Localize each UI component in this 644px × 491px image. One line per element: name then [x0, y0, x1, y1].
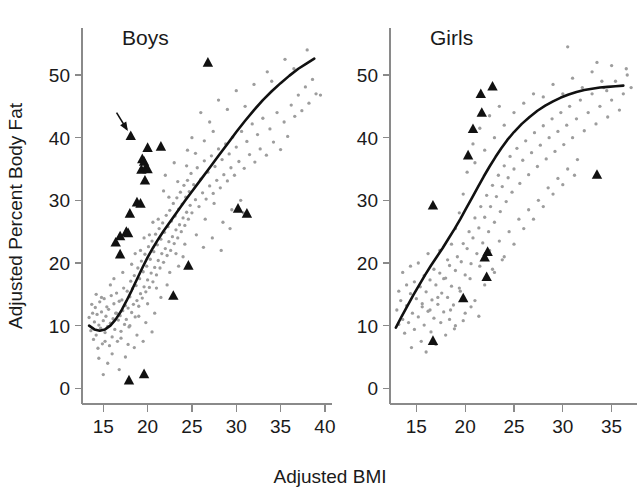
data-point — [306, 48, 309, 51]
figure-container: 01020304050152025303540Boys0102030405015… — [0, 0, 644, 491]
data-point — [293, 115, 296, 118]
data-point — [185, 164, 188, 167]
data-point — [533, 131, 536, 134]
data-point — [501, 185, 504, 188]
data-point — [407, 321, 410, 324]
data-point — [279, 148, 282, 151]
data-point — [424, 350, 427, 353]
data-point — [449, 308, 452, 311]
data-point — [110, 335, 113, 338]
data-point — [226, 179, 229, 182]
data-point — [134, 315, 137, 318]
data-point — [181, 255, 184, 258]
data-point — [161, 221, 164, 224]
data-point — [145, 264, 148, 267]
data-point — [194, 198, 197, 201]
data-point — [108, 344, 111, 347]
data-point — [142, 340, 145, 343]
data-point — [158, 266, 161, 269]
data-point — [140, 259, 143, 262]
data-point — [195, 233, 198, 236]
data-point — [439, 321, 442, 324]
data-point — [123, 323, 126, 326]
data-point — [266, 70, 269, 73]
data-point — [126, 290, 129, 293]
data-point — [436, 296, 439, 299]
data-point — [187, 217, 190, 220]
data-point — [202, 246, 205, 249]
data-point — [173, 242, 176, 245]
data-point — [90, 303, 93, 306]
data-point — [87, 316, 90, 319]
data-point — [424, 290, 427, 293]
data-point — [428, 308, 431, 311]
data-point — [189, 172, 192, 175]
data-point — [413, 328, 416, 331]
highlight-marker — [142, 142, 152, 152]
panel-title-girls: Girls — [430, 26, 473, 49]
data-point — [189, 204, 192, 207]
data-point — [259, 147, 262, 150]
data-point — [397, 290, 400, 293]
highlight-marker — [183, 260, 193, 270]
data-point — [245, 140, 248, 143]
data-point — [182, 184, 185, 187]
x-tick-label-girls-20: 20 — [455, 416, 476, 437]
data-point — [132, 303, 135, 306]
data-point — [130, 263, 133, 266]
y-axis-title: Adjusted Percent Body Fat — [5, 102, 26, 329]
data-point — [477, 226, 480, 229]
data-point — [473, 299, 476, 302]
data-point — [165, 214, 168, 217]
data-point — [121, 271, 124, 274]
data-point — [499, 210, 502, 213]
data-point — [311, 78, 314, 81]
data-point — [162, 189, 165, 192]
data-point — [100, 296, 103, 299]
data-point — [133, 274, 136, 277]
data-point — [153, 311, 156, 314]
data-point — [190, 211, 193, 214]
data-point — [618, 108, 621, 111]
data-point — [146, 302, 149, 305]
y-tick-label-boys-20: 20 — [49, 253, 70, 274]
data-point — [508, 155, 511, 158]
data-point — [434, 283, 437, 286]
data-point — [150, 330, 153, 333]
data-point — [464, 311, 467, 314]
data-point — [171, 235, 174, 238]
data-point — [478, 264, 481, 267]
data-point — [215, 179, 218, 182]
data-point — [142, 285, 145, 288]
data-point — [203, 139, 206, 142]
data-point — [489, 205, 492, 208]
data-point — [532, 217, 535, 220]
data-point — [442, 310, 445, 313]
data-point — [440, 291, 443, 294]
highlight-marker — [477, 107, 487, 117]
highlight-marker — [476, 88, 486, 98]
data-point — [210, 154, 213, 157]
data-point — [142, 236, 145, 239]
y-tick-label-boys-30: 30 — [49, 190, 70, 211]
data-point — [479, 205, 482, 208]
data-point — [204, 217, 207, 220]
data-point — [498, 239, 501, 242]
data-point — [150, 271, 153, 274]
data-point — [173, 161, 176, 164]
data-point — [220, 158, 223, 161]
data-point — [164, 174, 167, 177]
data-point — [568, 105, 571, 108]
data-point — [176, 180, 179, 183]
data-point — [147, 245, 150, 248]
data-point — [164, 247, 167, 250]
data-point — [539, 144, 542, 147]
data-point — [135, 333, 138, 336]
data-point — [468, 277, 471, 280]
data-point — [579, 98, 582, 101]
data-point — [594, 122, 597, 125]
data-point — [95, 333, 98, 336]
data-point — [169, 249, 172, 252]
y-tick-label-girls-0: 0 — [367, 378, 378, 399]
data-point — [506, 176, 509, 179]
